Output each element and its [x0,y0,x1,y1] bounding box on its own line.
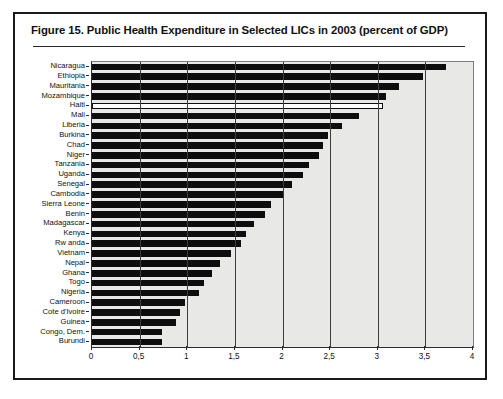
figure-page: Figure 15. Public Health Expenditure in … [0,0,503,399]
bar-benin [92,211,265,218]
x-axis-label-4: 4 [470,352,475,361]
x-axis-tick [377,346,378,350]
x-axis-tick [282,346,283,350]
y-axis-tick [86,223,89,224]
y-axis-tick [86,252,89,253]
gridline [425,62,426,347]
y-axis-label-nicaragua: Nicaragua [50,61,85,71]
y-axis-label-liberia: Liberia [62,120,85,130]
y-axis-tick [86,331,89,332]
y-axis-tick [86,134,89,135]
x-axis-tick [234,346,235,350]
x-axis: 00,511,522,533,54 [91,346,474,370]
bar-niger [92,152,319,159]
page-title: Figure 15. Public Health Expenditure in … [31,24,471,36]
y-axis-label-vietnam: Vietnam [57,248,85,258]
y-axis-label-cote-d-ivoire: Cote d'Ivoire [43,307,85,317]
bar-guinea [92,319,176,326]
y-axis-labels: NicaraguaEthiopiaMauritaniaMozambiqueHai… [15,61,89,346]
gridline [330,62,331,347]
y-axis-label-guinea: Guinea [61,317,86,327]
y-axis-tick [86,184,89,185]
y-axis-label-madagascar: Madagascar [43,218,85,228]
y-axis-label-rw-anda: Rw anda [55,238,85,248]
x-axis-tick [424,346,425,350]
y-axis-tick [86,193,89,194]
bar-nepal [92,260,220,267]
x-axis-label-0: 0 [89,352,94,361]
y-axis-tick [86,282,89,283]
bar-madagascar [92,221,254,228]
y-axis-tick [86,213,89,214]
y-axis-label-tanzania: Tanzania [55,159,85,169]
y-axis-label-ghana: Ghana [62,268,85,278]
y-axis-label-chad: Chad [67,140,85,150]
bar-nigeria [92,290,199,297]
x-axis-label-3: 3 [374,352,379,361]
y-axis-tick [86,302,89,303]
bar-burundi [92,339,162,346]
y-axis-label-nigeria: Nigeria [61,287,85,297]
y-axis-tick [86,174,89,175]
y-axis-tick [86,203,89,204]
y-axis-tick [86,321,89,322]
gridline [378,62,379,347]
y-axis-label-cameroon: Cameroon [50,297,85,307]
y-axis-label-burkina: Burkina [59,130,85,140]
bar-sierra-leone [92,201,271,208]
bar-haiti [92,103,383,110]
y-axis-label-mauritania: Mauritania [50,81,85,91]
y-axis-label-uganda: Uganda [58,169,85,179]
title-divider [33,46,465,47]
y-axis-tick [86,243,89,244]
x-axis-tick [329,346,330,350]
y-axis-label-burundi: Burundi [59,336,85,346]
bar-mali [92,113,359,120]
y-axis-label-niger: Niger [67,150,85,160]
y-axis-tick [86,125,89,126]
y-axis-tick [86,85,89,86]
gridline [187,62,188,347]
x-axis-label-3-5: 3,5 [419,352,430,361]
y-axis-tick [86,233,89,234]
bar-tanzania [92,162,309,169]
y-axis-label-mali: Mali [71,110,85,120]
x-axis-label-1: 1 [184,352,189,361]
y-axis-label-senegal: Senegal [57,179,85,189]
y-axis-label-congo-dem: Congo, Dem. [40,327,85,337]
y-axis-tick [86,311,89,312]
y-axis-tick [86,115,89,116]
x-axis-label-2: 2 [279,352,284,361]
gridline [140,62,141,347]
y-axis-tick [86,292,89,293]
bar-vietnam [92,250,231,257]
y-axis-tick [86,262,89,263]
bar-senegal [92,181,292,188]
bar-ethiopia [92,73,423,80]
x-axis-tick [91,346,92,350]
bar-mozambique [92,93,386,100]
figure-frame: Figure 15. Public Health Expenditure in … [13,12,487,380]
bar-kenya [92,231,246,238]
y-axis-tick [86,272,89,273]
gridline [283,62,284,347]
x-axis-tick [186,346,187,350]
y-axis-label-sierra-leone: Sierra Leone [42,199,85,209]
y-axis-tick [86,66,89,67]
gridline [235,62,236,347]
bar-liberia [92,123,342,130]
bar-ghana [92,270,212,277]
y-axis-label-benin: Benin [66,209,85,219]
y-axis-tick [86,144,89,145]
y-axis-tick [86,105,89,106]
y-axis-tick [86,95,89,96]
bar-cote-d-ivoire [92,309,180,316]
x-axis-label-1-5: 1,5 [228,352,239,361]
x-axis-label-2-5: 2,5 [323,352,334,361]
y-axis-label-mozambique: Mozambique [42,91,85,101]
x-axis-tick [472,346,473,350]
y-axis-label-haiti: Haiti [70,100,85,110]
x-axis-label-0-5: 0,5 [133,352,144,361]
bar-congo-dem [92,329,162,336]
bar-rw-anda [92,240,241,247]
